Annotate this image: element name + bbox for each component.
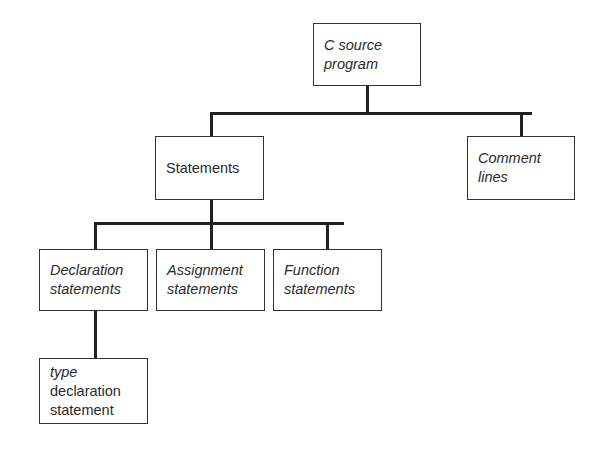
node-label: C source program: [324, 36, 382, 74]
node-statements: Statements: [155, 136, 264, 200]
edge-to-function: [326, 222, 329, 250]
edge-root-bar: [210, 112, 532, 115]
node-label: Declaration statements: [50, 261, 123, 299]
node-label: Comment lines: [478, 149, 541, 187]
edge-statements-down: [210, 200, 213, 224]
edge-to-statements: [210, 112, 213, 136]
node-label: Statements: [166, 159, 239, 178]
edge-statements-bar: [94, 222, 344, 225]
node-label: Assignment statements: [167, 261, 243, 299]
node-c-source-program: C source program: [313, 23, 421, 86]
node-type-declaration-statement: type declaration statement: [39, 358, 148, 424]
node-label-rest: declaration statement: [50, 383, 121, 418]
edge-to-comment-lines: [520, 112, 523, 136]
edge-root-down: [366, 85, 369, 114]
node-label: type declaration statement: [50, 363, 121, 420]
node-label-type: type: [50, 364, 77, 380]
node-function-statements: Function statements: [273, 249, 382, 311]
edge-declaration-to-type: [94, 310, 97, 358]
node-declaration-statements: Declaration statements: [39, 249, 148, 311]
node-comment-lines: Comment lines: [467, 136, 575, 200]
edge-to-assignment: [210, 222, 213, 250]
edge-to-declaration: [94, 222, 97, 250]
node-assignment-statements: Assignment statements: [156, 249, 265, 311]
node-label: Function statements: [284, 261, 355, 299]
